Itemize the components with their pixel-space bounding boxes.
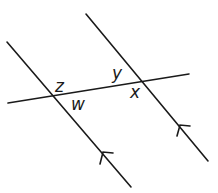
transversal-line	[8, 74, 189, 103]
angle-label-z: z	[54, 76, 65, 96]
angle-label-w: w	[71, 94, 85, 114]
angle-label-y: y	[111, 63, 123, 83]
angle-label-x: x	[129, 82, 141, 102]
parallel-lines-diagram: z w y x	[0, 0, 218, 193]
